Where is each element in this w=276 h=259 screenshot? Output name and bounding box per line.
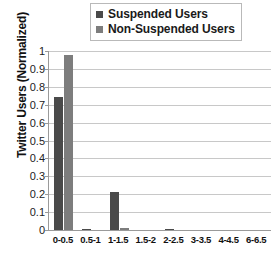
bar-group bbox=[50, 51, 78, 230]
bar bbox=[120, 228, 129, 230]
bar bbox=[82, 229, 91, 231]
y-axis-tick-label: 0.9 bbox=[30, 63, 45, 75]
y-axis-tick-mark bbox=[45, 141, 49, 142]
legend-label: Non-Suspended Users bbox=[108, 23, 235, 36]
x-axis-tick-label: 0-0.5 bbox=[49, 234, 77, 245]
y-axis-tick-label: 0 bbox=[39, 224, 45, 236]
y-axis-title: Twitter Users (Normalized) bbox=[15, 0, 29, 180]
bar-group bbox=[133, 51, 161, 230]
y-axis-tick-label: 0.6 bbox=[30, 117, 45, 129]
y-axis-tick-mark bbox=[45, 230, 49, 231]
legend-swatch-icon bbox=[96, 11, 103, 18]
bar-group bbox=[188, 51, 216, 230]
x-axis-tick-label: 2-2.5 bbox=[160, 234, 188, 245]
legend-item-non-suspended-users: Non-Suspended Users bbox=[96, 22, 235, 37]
bar-group bbox=[243, 51, 271, 230]
x-axis-tick-label: 1.5-2 bbox=[132, 234, 160, 245]
plot-area: 10.90.80.70.60.50.40.30.20.10 bbox=[48, 51, 270, 230]
chart-legend: Suspended Users Non-Suspended Users bbox=[90, 3, 242, 41]
x-axis-labels: 0-0.50.5-11-1.51.5-22-2.53-3.54-4.56-6.5 bbox=[49, 234, 270, 245]
legend-label: Suspended Users bbox=[108, 8, 208, 21]
x-axis-tick-label: 0.5-1 bbox=[77, 234, 105, 245]
x-axis-tick-label: 6-6.5 bbox=[242, 234, 270, 245]
y-axis-tick-label: 0.8 bbox=[30, 81, 45, 93]
y-axis-tick-mark bbox=[45, 194, 49, 195]
legend-swatch-icon bbox=[96, 26, 103, 33]
y-axis-tick-mark bbox=[45, 87, 49, 88]
bar-group bbox=[161, 51, 189, 230]
bar bbox=[54, 97, 63, 230]
bar-groups bbox=[50, 51, 271, 230]
y-axis-tick-label: 1 bbox=[39, 45, 45, 57]
x-axis-tick-label: 4-4.5 bbox=[215, 234, 243, 245]
y-axis-tick-label: 0.1 bbox=[30, 206, 45, 218]
y-axis-tick-mark bbox=[45, 123, 49, 124]
y-axis-tick-label: 0.7 bbox=[30, 99, 45, 111]
y-axis-tick-label: 0.2 bbox=[30, 188, 45, 200]
bar bbox=[64, 55, 73, 230]
y-axis-tick-mark bbox=[45, 176, 49, 177]
y-axis-tick-label: 0.3 bbox=[30, 170, 45, 182]
bar bbox=[110, 192, 119, 230]
bar-group bbox=[105, 51, 133, 230]
bar-group bbox=[216, 51, 244, 230]
x-axis-tick-label: 3-3.5 bbox=[187, 234, 215, 245]
y-axis-tick-mark bbox=[45, 158, 49, 159]
y-axis-tick-label: 0.4 bbox=[30, 152, 45, 164]
y-axis-tick-label: 0.5 bbox=[30, 135, 45, 147]
bar-group bbox=[78, 51, 106, 230]
y-axis-tick-mark bbox=[45, 105, 49, 106]
gridline bbox=[49, 230, 271, 231]
legend-item-suspended-users: Suspended Users bbox=[96, 7, 235, 22]
y-axis-tick-mark bbox=[45, 51, 49, 52]
y-axis-tick-mark bbox=[45, 212, 49, 213]
y-axis-tick-mark bbox=[45, 69, 49, 70]
x-axis-tick-label: 1-1.5 bbox=[104, 234, 132, 245]
bar bbox=[165, 229, 174, 231]
